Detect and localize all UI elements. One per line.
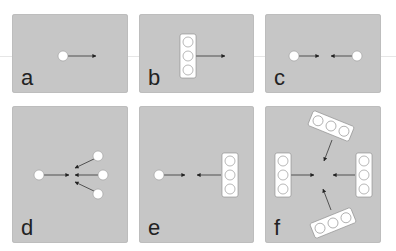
particle-rod — [308, 110, 355, 141]
particle — [98, 170, 108, 180]
panel-c: c — [265, 14, 381, 93]
panel-b: b — [139, 14, 254, 93]
particle — [289, 51, 299, 61]
particle-rod — [310, 207, 357, 238]
particle — [352, 51, 362, 61]
panel-label: b — [148, 67, 160, 89]
panel-f-diagram — [265, 106, 381, 243]
arrow-icon — [75, 182, 96, 192]
particle — [154, 170, 164, 180]
panel-label: f — [274, 217, 280, 239]
panel-e: e — [139, 106, 254, 243]
particle — [93, 151, 103, 161]
particle — [93, 189, 103, 199]
particle — [58, 51, 68, 61]
particle-rod — [275, 153, 291, 197]
panel-f: f — [265, 106, 381, 243]
panel-label: a — [21, 67, 33, 89]
panel-label: c — [274, 67, 285, 89]
particle-rod — [356, 153, 372, 197]
arrow-icon — [75, 158, 96, 168]
panel-label: d — [21, 217, 33, 239]
particle — [34, 170, 44, 180]
arrow-icon — [324, 140, 332, 161]
panel-label: e — [148, 217, 160, 239]
panel-d: d — [12, 106, 128, 243]
arrow-icon — [323, 189, 331, 210]
panel-a: a — [12, 14, 128, 93]
